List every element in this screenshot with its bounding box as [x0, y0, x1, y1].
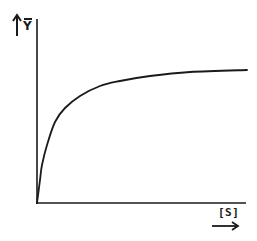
overbar [24, 18, 32, 20]
y-arrow-icon [13, 15, 21, 36]
saturation-curve [37, 70, 247, 203]
x-axis-label: [S] [218, 206, 239, 219]
saturation-chart [0, 0, 257, 241]
y-axis-label: Y [23, 19, 32, 33]
y-axis-label-text: Y [23, 19, 32, 33]
x-arrow-icon [212, 222, 238, 230]
